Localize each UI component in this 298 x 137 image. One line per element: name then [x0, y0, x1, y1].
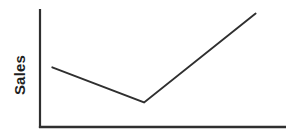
sales-line-series: [52, 14, 255, 103]
chart-svg: [0, 0, 298, 137]
sales-line-chart: Sales: [0, 0, 298, 137]
